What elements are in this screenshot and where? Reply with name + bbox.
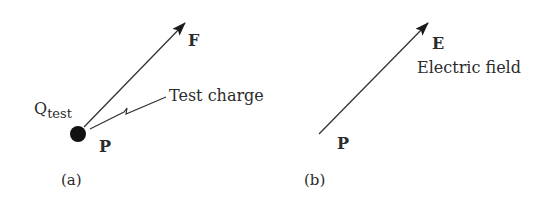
caption-a: (a) xyxy=(61,171,82,189)
electric-field-vector-arrow xyxy=(319,23,428,134)
electric-field-label: E xyxy=(432,34,444,53)
test-charge-dot xyxy=(70,126,86,142)
diagram-canvas xyxy=(0,0,556,200)
force-vector-arrow xyxy=(84,23,185,127)
test-charge-annotation: Test charge xyxy=(169,86,264,105)
panel-b xyxy=(319,23,428,134)
charge-label-main: Q xyxy=(34,99,47,118)
force-label: F xyxy=(188,31,199,50)
caption-b: (b) xyxy=(304,171,325,189)
charge-label: Qtest xyxy=(34,99,72,121)
test-charge-leader-line xyxy=(90,97,166,129)
electric-field-description: Electric field xyxy=(417,58,521,77)
charge-label-subscript: test xyxy=(47,106,72,121)
point-label-b: P xyxy=(337,134,349,153)
point-label-a: P xyxy=(99,137,111,156)
panel-a xyxy=(70,23,185,142)
